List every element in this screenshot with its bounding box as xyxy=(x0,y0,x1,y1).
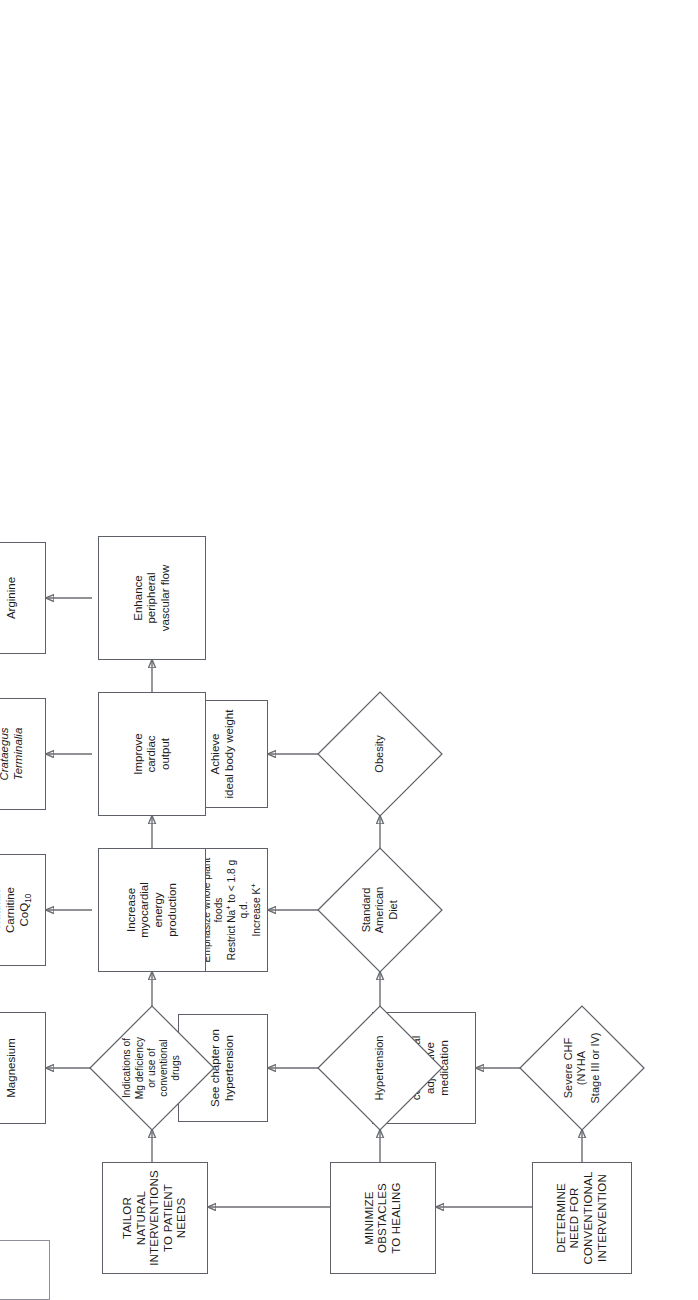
node-enhance-peripheral: Enhance peripheral vascular flow xyxy=(98,536,206,660)
thiamin-carnitine-coq10-text: Thiamin Carnitine CoQ10 xyxy=(0,887,30,933)
node-mg-indications: Indications of Mg deficiency or use of c… xyxy=(90,1006,214,1130)
standard-american-diet-shape xyxy=(318,848,442,972)
diet-line-5: Increase K+ xyxy=(250,852,263,968)
node-thiamin-carnitine-coq10: Thiamin Carnitine CoQ10 xyxy=(0,854,46,966)
node-magnesium-label: Magnesium xyxy=(5,1016,19,1120)
node-tailor-natural: TAILOR NATURAL INTERVENTIONS TO PATIENT … xyxy=(102,1162,208,1274)
node-increase-myocardial: Increase myocardial energy production xyxy=(98,848,206,972)
mg-indications-shape xyxy=(90,1006,214,1130)
node-increase-myocardial-label: Increase myocardial energy production xyxy=(125,852,179,968)
node-magnesium: Magnesium xyxy=(0,1012,46,1124)
node-improve-cardiac-output: Improve cardiac output xyxy=(98,692,206,816)
node-thiamin-carnitine-coq10-label: Thiamin Carnitine CoQ10 xyxy=(0,858,34,962)
node-arginine: Arginine xyxy=(0,542,46,654)
node-arginine-label: Arginine xyxy=(5,546,19,650)
node-ideal-body-weight-label: Achieve ideal body weight xyxy=(209,704,236,804)
node-crataegus-terminalia-label: Crataegus Terminalia xyxy=(0,702,26,806)
node-obesity: Obesity xyxy=(318,692,442,816)
node-determine-need-label: DETERMINE NEED FOR CONVENTIONAL INTERVEN… xyxy=(555,1166,609,1270)
node-tailor-natural-label: TAILOR NATURAL INTERVENTIONS TO PATIENT … xyxy=(121,1166,189,1270)
node-enhance-peripheral-label: Enhance peripheral vascular flow xyxy=(132,540,173,656)
node-minimize-obstacles: MINIMIZE OBSTACLES TO HEALING xyxy=(330,1162,436,1274)
node-determine-need: DETERMINE NEED FOR CONVENTIONAL INTERVEN… xyxy=(532,1162,632,1274)
node-hypertension: Hypertension xyxy=(318,1006,442,1130)
node-standard-american-diet: Standard American Diet xyxy=(318,848,442,972)
severe-chf-shape xyxy=(520,1006,644,1130)
node-crataegus-terminalia: Crataegus Terminalia xyxy=(0,698,46,810)
diet-line-4: Restrict Na+ to < 1.8 g q.d. xyxy=(225,852,250,968)
node-improve-cardiac-output-label: Improve cardiac output xyxy=(132,696,173,812)
hypertension-shape xyxy=(318,1006,442,1130)
node-minimize-obstacles-label: MINIMIZE OBSTACLES TO HEALING xyxy=(363,1166,404,1270)
obesity-shape xyxy=(318,692,442,816)
node-severe-chf: Severe CHF (NYHA Stage III or IV) xyxy=(520,1006,644,1130)
